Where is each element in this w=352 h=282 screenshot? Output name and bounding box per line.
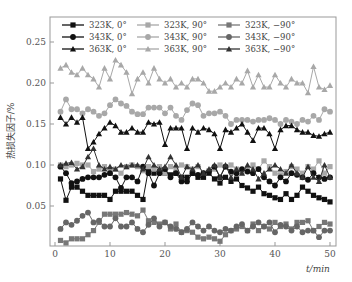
marker-circle	[217, 109, 223, 115]
marker-square	[316, 195, 321, 200]
marker-square	[118, 212, 123, 217]
marker-circle	[250, 119, 256, 125]
marker-square	[63, 198, 68, 203]
marker-circle	[80, 213, 86, 219]
marker-square	[261, 158, 266, 163]
marker-circle	[261, 117, 267, 123]
marker-square	[102, 212, 107, 217]
marker-circle	[168, 224, 174, 230]
marker-square	[226, 22, 231, 27]
marker-circle	[261, 224, 267, 230]
marker-circle	[217, 229, 223, 235]
marker-circle	[184, 179, 190, 185]
marker-circle	[146, 222, 152, 228]
marker-circle	[179, 229, 185, 235]
marker-circle	[283, 179, 289, 185]
marker-square	[267, 226, 272, 231]
legend-label: 323K, 0°	[89, 20, 127, 30]
marker-circle	[162, 110, 168, 116]
x-tick-label: 50	[324, 249, 336, 259]
marker-circle	[85, 106, 91, 112]
marker-circle	[173, 170, 179, 176]
marker-square	[58, 238, 63, 243]
marker-square	[250, 189, 255, 194]
marker-circle	[195, 102, 201, 108]
marker-circle	[267, 220, 273, 226]
legend-label: 323K, 90°	[164, 20, 207, 30]
marker-circle	[294, 224, 300, 230]
legend-label: 363K, −90°	[245, 44, 295, 54]
marker-square	[58, 176, 63, 181]
marker-circle	[157, 224, 163, 230]
x-tick-label: 30	[214, 249, 226, 259]
marker-circle	[69, 180, 75, 186]
marker-square	[272, 171, 277, 176]
marker-circle	[107, 102, 113, 108]
marker-circle	[63, 220, 69, 226]
marker-square	[245, 185, 250, 190]
marker-square	[217, 162, 222, 167]
marker-circle	[226, 34, 232, 40]
marker-circle	[96, 174, 102, 180]
marker-square	[146, 164, 151, 169]
marker-circle	[228, 121, 234, 127]
marker-square	[322, 220, 327, 225]
marker-circle	[102, 224, 108, 230]
y-tick-label: 0.25	[26, 37, 46, 47]
marker-square	[272, 195, 277, 200]
marker-circle	[278, 174, 284, 180]
marker-square	[300, 185, 305, 190]
marker-circle	[135, 226, 141, 232]
marker-circle	[316, 117, 322, 123]
marker-circle	[96, 218, 102, 224]
marker-square	[256, 185, 261, 190]
marker-circle	[294, 121, 300, 127]
marker-square	[74, 161, 79, 166]
marker-square	[80, 189, 85, 194]
marker-circle	[234, 117, 240, 123]
legend-label: 343K, −90°	[245, 32, 295, 42]
marker-square	[294, 193, 299, 198]
legend: 323K, 0°323K, 90°323K, −90°343K, 0°343K,…	[62, 20, 295, 54]
x-tick-label: 0	[52, 249, 58, 259]
marker-circle	[113, 215, 119, 221]
legend-label: 363K, 90°	[164, 44, 207, 54]
marker-circle	[91, 109, 97, 115]
marker-circle	[113, 97, 119, 103]
marker-square	[316, 158, 321, 163]
marker-circle	[173, 113, 179, 119]
marker-square	[311, 193, 316, 198]
marker-circle	[124, 103, 130, 109]
marker-square	[124, 210, 129, 215]
marker-circle	[151, 215, 157, 221]
marker-square	[80, 236, 85, 241]
marker-circle	[107, 170, 113, 176]
marker-square	[234, 176, 239, 181]
marker-circle	[135, 111, 141, 117]
marker-circle	[212, 228, 218, 234]
marker-square	[212, 236, 217, 241]
marker-square	[223, 175, 228, 180]
marker-circle	[195, 172, 201, 178]
x-tick-label: 10	[104, 249, 116, 259]
marker-square	[190, 230, 195, 235]
legend-label: 343K, 0°	[89, 32, 127, 42]
y-tick-label: 0.05	[26, 201, 46, 211]
marker-square	[85, 162, 90, 167]
marker-circle	[206, 224, 212, 230]
marker-square	[267, 193, 272, 198]
marker-square	[74, 236, 79, 241]
marker-circle	[146, 170, 152, 176]
marker-circle	[190, 220, 196, 226]
marker-square	[283, 191, 288, 196]
marker-circle	[162, 220, 168, 226]
marker-square	[63, 240, 68, 245]
marker-square	[278, 197, 283, 202]
marker-circle	[190, 101, 196, 107]
marker-square	[305, 218, 310, 223]
marker-circle	[151, 105, 157, 111]
marker-square	[261, 191, 266, 196]
marker-circle	[278, 222, 284, 228]
marker-circle	[129, 109, 135, 115]
marker-circle	[102, 110, 108, 116]
